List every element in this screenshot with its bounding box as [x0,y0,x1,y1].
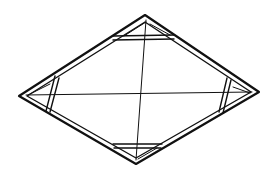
frame-inner [27,22,251,158]
brace-top [113,22,174,40]
diamond-frame-drawing [0,0,279,179]
diagram-canvas [0,0,279,179]
frame-outer [19,15,259,164]
diagonal-vertical [136,20,146,160]
diagonal-horizontal [26,92,252,95]
